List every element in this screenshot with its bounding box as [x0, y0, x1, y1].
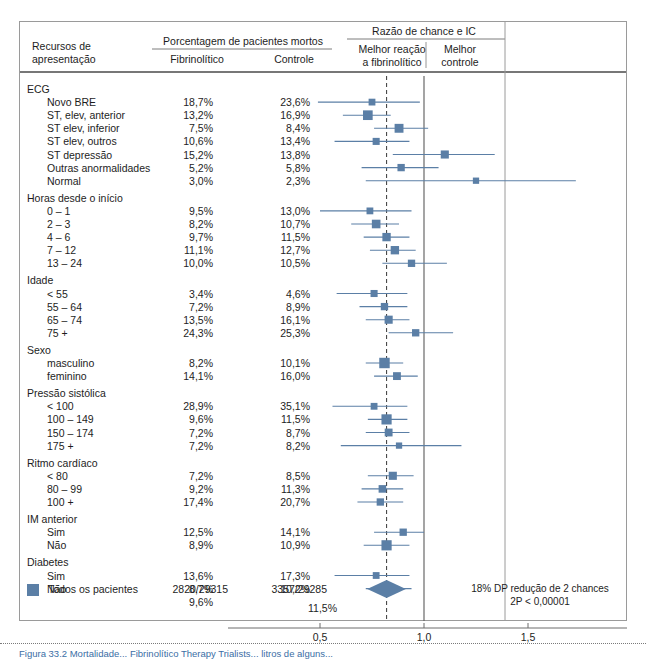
x-axis-tick-label: 1,5 — [521, 631, 536, 643]
row-fibrinolytic-pct: 11,1% — [184, 244, 213, 256]
row-fibrinolytic-pct: 10,6% — [183, 135, 213, 147]
row-label: ST elev, outros — [47, 135, 117, 147]
row-control-pct: 10,7% — [280, 218, 310, 230]
row-control-pct: 16,1% — [280, 314, 310, 326]
row-fibrinolytic-pct: 7,2% — [189, 427, 213, 439]
summary-control-pct: 11,5% — [308, 602, 337, 614]
row-label: 7 – 12 — [47, 244, 76, 256]
header-favors-control-line1: Melhor — [444, 43, 476, 55]
row-control-pct: 10,1% — [280, 357, 310, 369]
x-axis-tick-label: 0,5 — [313, 631, 328, 643]
row-control-pct: 25,3% — [280, 327, 310, 339]
row-label: feminino — [47, 370, 87, 382]
row-fibrinolytic-pct: 17,4% — [183, 496, 213, 508]
row-fibrinolytic-pct: 13,2% — [183, 109, 213, 121]
row-control-pct: 23,6% — [280, 96, 310, 108]
row-label: < 55 — [47, 288, 68, 300]
row-control-pct: 5,8% — [286, 162, 310, 174]
summary-fibrinolytic-pct: 9,6% — [189, 596, 213, 608]
row-label: 75 + — [47, 327, 68, 339]
row-control-pct: 13,8% — [280, 149, 310, 161]
row-fibrinolytic-pct: 7,2% — [189, 470, 213, 482]
row-label: 55 – 64 — [47, 301, 82, 313]
row-control-pct: 2,3% — [286, 175, 310, 187]
row-control-pct: 35,1% — [280, 400, 310, 412]
row-label: Não — [47, 539, 66, 551]
summary-legend-swatch — [27, 584, 39, 596]
row-control-pct: 10,9% — [280, 539, 310, 551]
row-control-pct: 4,6% — [286, 288, 310, 300]
row-label: 80 – 99 — [47, 483, 82, 495]
summary-control-counts: 3357/29285 — [272, 583, 327, 595]
group-label: Ritmo cardíaco — [27, 457, 98, 469]
row-label: masculino — [47, 357, 94, 369]
figure-caption: Figura 33.2 Mortalidade... Fibrinolítico… — [19, 648, 629, 660]
row-fibrinolytic-pct: 28,9% — [183, 400, 213, 412]
row-label: 4 – 6 — [47, 231, 70, 243]
row-label: < 80 — [47, 470, 68, 482]
row-fibrinolytic-pct: 8,2% — [189, 218, 213, 230]
row-control-pct: 17,3% — [280, 570, 310, 582]
row-label: 100 + — [47, 496, 74, 508]
row-label: ST, elev, anterior — [47, 109, 125, 121]
row-fibrinolytic-pct: 14,1% — [183, 370, 213, 382]
row-fibrinolytic-pct: 5,2% — [189, 162, 213, 174]
row-control-pct: 8,7% — [286, 427, 310, 439]
row-control-pct: 16,0% — [280, 370, 310, 382]
row-label: 2 – 3 — [47, 218, 70, 230]
group-label: ECG — [27, 83, 50, 95]
row-label: 13 – 24 — [47, 257, 82, 269]
row-control-pct: 16,9% — [280, 109, 310, 121]
group-label: IM anterior — [27, 513, 77, 525]
row-label: ST depressão — [47, 149, 112, 161]
header-subject-line2: apresentação — [32, 53, 96, 65]
row-fibrinolytic-pct: 7,2% — [189, 301, 213, 313]
header-subject-line1: Recursos de — [32, 40, 91, 52]
row-fibrinolytic-pct: 3,4% — [189, 288, 213, 300]
row-control-pct: 13,4% — [280, 135, 310, 147]
header-fibrinolytic: Fibrinolítico — [170, 53, 224, 65]
summary-note-line2: 2P < 0,00001 — [510, 596, 570, 607]
row-label: Sim — [47, 526, 65, 538]
row-fibrinolytic-pct: 3,0% — [189, 175, 213, 187]
row-fibrinolytic-pct: 7,5% — [189, 122, 213, 134]
row-control-pct: 20,7% — [280, 496, 310, 508]
group-label: Diabetes — [27, 556, 68, 568]
row-fibrinolytic-pct: 8,2% — [189, 357, 213, 369]
header-favors-control-line2: controle — [441, 56, 478, 68]
row-control-pct: 14,1% — [280, 526, 310, 538]
group-label: Horas desde o início — [27, 192, 123, 204]
group-label: Pressão sistólica — [27, 387, 106, 399]
row-fibrinolytic-pct: 15,2% — [183, 149, 213, 161]
header-percent-group: Porcentagem de pacientes mortos — [163, 35, 323, 47]
row-control-pct: 11,3% — [281, 483, 310, 495]
row-fibrinolytic-pct: 9,2% — [189, 483, 213, 495]
row-fibrinolytic-pct: 12,5% — [183, 526, 213, 538]
row-fibrinolytic-pct: 9,5% — [189, 205, 213, 217]
row-control-pct: 8,9% — [286, 301, 310, 313]
group-label: Sexo — [27, 344, 51, 356]
row-fibrinolytic-pct: 13,6% — [183, 570, 213, 582]
row-fibrinolytic-pct: 9,7% — [189, 231, 213, 243]
row-fibrinolytic-pct: 8,9% — [189, 539, 213, 551]
row-control-pct: 12,7% — [280, 244, 310, 256]
row-label: 0 – 1 — [47, 205, 70, 217]
row-control-pct: 8,4% — [286, 122, 310, 134]
row-control-pct: 11,5% — [281, 413, 310, 425]
row-control-pct: 8,2% — [286, 440, 310, 452]
row-control-pct: 8,5% — [286, 470, 310, 482]
row-label: 100 – 149 — [47, 413, 94, 425]
summary-fibrinolytic-counts: 2820/29315 — [173, 583, 228, 595]
row-label: Sim — [47, 570, 65, 582]
row-label: Novo BRE — [47, 96, 96, 108]
header-odds-ratio-group: Razão de chance e IC — [372, 25, 476, 37]
row-fibrinolytic-pct: 9,6% — [189, 413, 213, 425]
row-fibrinolytic-pct: 10,0% — [183, 257, 213, 269]
row-fibrinolytic-pct: 7,2% — [189, 440, 213, 452]
group-label: Idade — [27, 274, 53, 286]
row-fibrinolytic-pct: 18,7% — [183, 96, 213, 108]
row-control-pct: 11,5% — [281, 231, 310, 243]
row-label: Normal — [47, 175, 81, 187]
header-favors-fibrinolytic-line1: Melhor reação — [358, 43, 425, 55]
row-label: 150 – 174 — [47, 427, 94, 439]
